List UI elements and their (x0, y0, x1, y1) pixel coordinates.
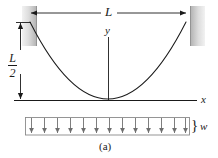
sag-denominator: 2 (9, 67, 17, 80)
x-axis-label: x (201, 94, 206, 105)
distributed-load-box (26, 118, 190, 136)
load-brace: } (191, 118, 198, 133)
span-label: L (105, 5, 112, 18)
load-arrow-group (32, 118, 186, 133)
sag-label: L 2 (8, 52, 17, 79)
y-axis-label: y (105, 25, 110, 36)
right-wall (190, 6, 205, 46)
figure-container: L L 2 y x } w (a) (0, 0, 218, 158)
load-label: w (200, 121, 207, 132)
sag-numerator: L (8, 52, 17, 65)
left-wall (22, 6, 37, 46)
figure-caption: (a) (99, 141, 111, 152)
